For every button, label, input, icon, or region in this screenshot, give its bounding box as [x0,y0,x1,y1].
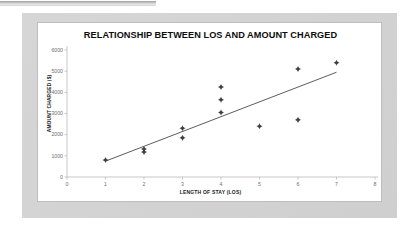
data-point [334,60,340,66]
data-point [218,97,224,103]
chart-card: RELATIONSHIP BETWEEN LOS AND AMOUNT CHAR… [37,22,382,202]
x-tick-label: 6 [291,181,305,187]
y-tick-label: 3000 [38,110,63,116]
x-tick-label: 7 [330,181,344,187]
x-tick-label: 3 [176,181,190,187]
data-point [218,110,224,116]
x-tick-label: 2 [137,181,151,187]
y-tick-label: 5000 [38,68,63,74]
top-strip-underline [0,5,156,6]
x-tick-label: 4 [214,181,228,187]
y-tick-label: 6000 [38,47,63,53]
y-tick-label: 0 [38,174,63,180]
scatter-plot-svg [38,23,383,203]
data-point [218,84,224,90]
y-tick-label: 2000 [38,131,63,137]
data-point [295,66,301,72]
data-point [180,135,186,141]
y-tick-label: 1000 [38,153,63,159]
y-tick-label: 4000 [38,89,63,95]
data-point [257,123,263,129]
data-points-layer [103,60,340,163]
screenshot-root: RELATIONSHIP BETWEEN LOS AND AMOUNT CHAR… [0,0,416,241]
data-point [295,117,301,123]
data-point [103,157,109,163]
x-tick-label: 5 [253,181,267,187]
x-tick-label: 0 [60,181,74,187]
x-tick-label: 8 [368,181,382,187]
x-tick-label: 1 [99,181,113,187]
